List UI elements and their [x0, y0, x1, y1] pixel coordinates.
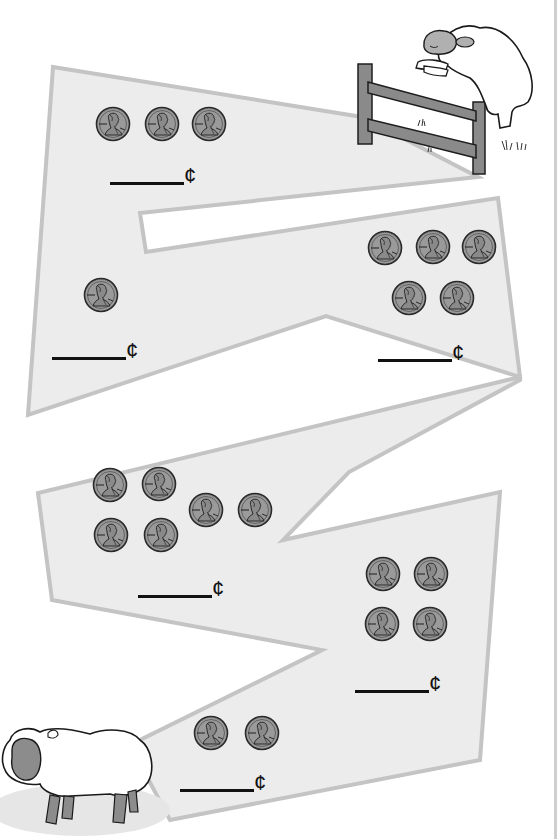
cent-sign: ¢ — [452, 342, 464, 364]
penny-icon — [439, 280, 475, 316]
penny-icon — [95, 106, 131, 142]
answer-blank-3[interactable]: ¢ — [52, 340, 142, 362]
penny-icon — [367, 230, 403, 266]
penny-icon — [141, 466, 177, 502]
penny-icon — [193, 715, 229, 751]
answer-blank-6[interactable]: ¢ — [180, 772, 270, 794]
penny-icon — [188, 492, 224, 528]
answer-line — [138, 595, 212, 598]
penny-icon — [391, 280, 427, 316]
answer-line — [355, 690, 429, 693]
penny-icon — [237, 492, 273, 528]
penny-icon — [413, 556, 449, 592]
cent-sign: ¢ — [126, 340, 138, 362]
answer-line — [52, 357, 126, 360]
answer-blank-4[interactable]: ¢ — [138, 578, 228, 600]
cent-sign: ¢ — [429, 673, 441, 695]
worksheet-canvas — [0, 0, 559, 839]
cent-sign: ¢ — [184, 165, 196, 187]
penny-icon — [144, 106, 180, 142]
cent-sign: ¢ — [212, 578, 224, 600]
penny-icon — [412, 606, 448, 642]
penny-icon — [92, 467, 128, 503]
answer-line — [180, 789, 254, 792]
answer-blank-5[interactable]: ¢ — [355, 673, 445, 695]
penny-icon — [461, 229, 497, 265]
penny-icon — [83, 277, 119, 313]
penny-icon — [364, 606, 400, 642]
penny-icon — [415, 229, 451, 265]
penny-icon — [244, 715, 280, 751]
zigzag-path — [28, 67, 520, 820]
sheep-standing-illustration — [0, 729, 170, 836]
answer-blank-2[interactable]: ¢ — [378, 342, 468, 364]
answer-line — [378, 359, 452, 362]
answer-blank-1[interactable]: ¢ — [110, 165, 200, 187]
cent-sign: ¢ — [254, 772, 266, 794]
penny-icon — [93, 517, 129, 553]
answer-line — [110, 182, 184, 185]
penny-icon — [143, 517, 179, 553]
penny-icon — [365, 556, 401, 592]
penny-icon — [191, 106, 227, 142]
